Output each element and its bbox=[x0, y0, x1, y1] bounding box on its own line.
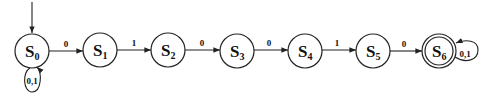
transition-s4-s5: 1 bbox=[322, 38, 356, 50]
transition-label: 0 bbox=[402, 39, 407, 49]
transition-s5-s6: 0 bbox=[390, 39, 422, 51]
transition-label: 0 bbox=[200, 38, 205, 48]
state-s2: S2 bbox=[151, 33, 185, 67]
transition-label: 0,1 bbox=[26, 76, 38, 86]
state-s4: S4 bbox=[288, 34, 322, 68]
transition-label: 0 bbox=[64, 39, 69, 49]
transition-label: 0,1 bbox=[459, 49, 471, 59]
self-loop-s0: 0,1 bbox=[25, 67, 41, 92]
transition-s1-s2: 1 bbox=[117, 38, 151, 50]
transition-s0-s1: 0 bbox=[49, 39, 83, 51]
transition-label: 0 bbox=[267, 38, 272, 48]
state-s5: S5 bbox=[356, 34, 390, 68]
transition-label: 1 bbox=[335, 38, 340, 48]
state-diagram: 0 1 0 0 1 0 0,1 0,1 S0 S1 S2 bbox=[0, 0, 494, 96]
state-s3: S3 bbox=[220, 34, 254, 68]
state-s0: S0 bbox=[15, 34, 49, 68]
self-loop-s6: 0,1 bbox=[455, 41, 478, 61]
transition-label: 1 bbox=[132, 38, 137, 48]
transition-s2-s3: 0 bbox=[185, 38, 220, 50]
state-s6-accept: S6 bbox=[422, 34, 456, 68]
transition-s3-s4: 0 bbox=[254, 38, 288, 50]
state-s1: S1 bbox=[83, 33, 117, 67]
